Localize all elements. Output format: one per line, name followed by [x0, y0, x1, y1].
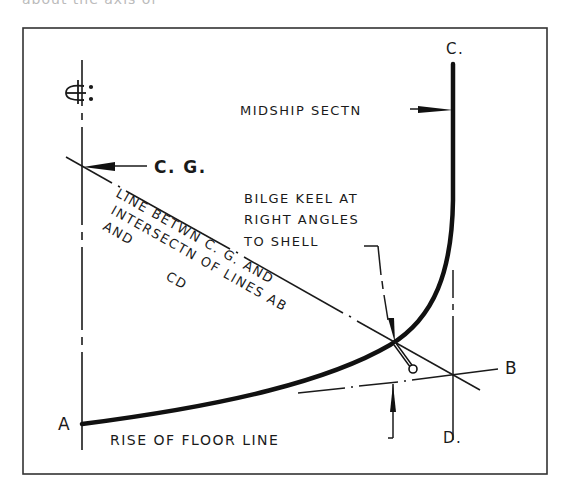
- diagram-frame: [23, 28, 547, 474]
- centerline-symbol-icon: [66, 80, 92, 104]
- point-b-label: B: [505, 358, 518, 378]
- cg-label: C. G.: [154, 157, 207, 177]
- midship-arrow-icon: [410, 106, 453, 113]
- midship-section-label: MIDSHIP SECTN: [240, 103, 362, 118]
- bilge-keel-leader: [364, 246, 388, 320]
- bilge-keel-label-line2: RIGHT ANGLES: [244, 212, 359, 227]
- point-c-label: C.: [446, 40, 464, 58]
- rise-of-floor-leader: [388, 384, 396, 438]
- bilge-keel-label-line1: BILGE KEEL AT: [244, 191, 358, 206]
- point-d-label: D.: [443, 429, 462, 447]
- bilge-keel-label-line3: TO SHELL: [243, 234, 319, 249]
- rise-of-floor-label: RISE OF FLOOR LINE: [110, 432, 279, 448]
- bilge-keel-diagram: C. A B D. C. G. MIDSHIP SECTN BILGE KEEL…: [0, 0, 572, 491]
- point-a-label: A: [58, 414, 71, 434]
- cg-arrow-icon: [83, 162, 147, 171]
- diagonal-label-line4: CD: [164, 269, 191, 293]
